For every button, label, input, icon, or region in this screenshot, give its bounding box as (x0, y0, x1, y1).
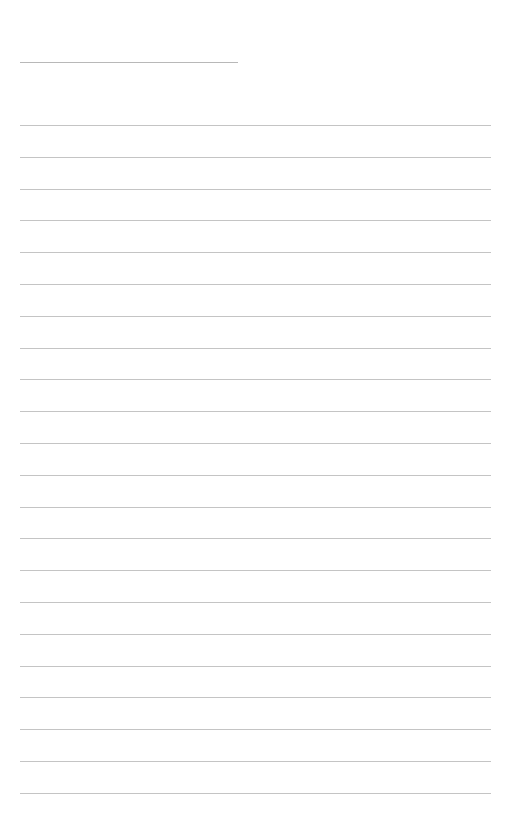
ruled-line (20, 157, 491, 158)
ruled-line (20, 761, 491, 762)
ruled-line (20, 316, 491, 317)
lined-page (0, 0, 522, 833)
ruled-line (20, 729, 491, 730)
ruled-line (20, 666, 491, 667)
ruled-line (20, 284, 491, 285)
title-line (20, 62, 238, 63)
ruled-line (20, 634, 491, 635)
ruled-line (20, 538, 491, 539)
ruled-line (20, 475, 491, 476)
ruled-line (20, 570, 491, 571)
ruled-line (20, 411, 491, 412)
ruled-line (20, 348, 491, 349)
ruled-line (20, 602, 491, 603)
ruled-line (20, 220, 491, 221)
ruled-line (20, 697, 491, 698)
ruled-line (20, 189, 491, 190)
ruled-line (20, 125, 491, 126)
ruled-line (20, 379, 491, 380)
ruled-line (20, 252, 491, 253)
ruled-line (20, 507, 491, 508)
ruled-line (20, 793, 491, 794)
ruled-line (20, 443, 491, 444)
